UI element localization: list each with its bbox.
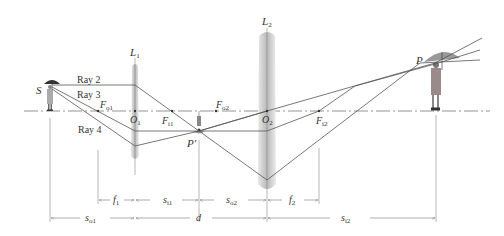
focal-point-fi2 [318,110,320,112]
final-image-person-p [424,52,460,111]
ray-2-label: Ray 2 [77,74,101,85]
lens-center-o1 [134,110,136,112]
dim-label-f1: f1 [113,194,120,207]
lens-l2 [258,28,276,222]
intermediate-image-label: P′ [186,137,197,149]
dim-label-so1: so1 [85,212,96,225]
dim-label-d: d [196,212,202,223]
focal-point-fi1 [171,110,173,112]
lens-l2-label: L2 [261,15,272,29]
focal-point-fo2 [215,110,217,112]
ray-chief-l2 [199,111,267,131]
focal-label-fo2: Fo2 [215,99,230,112]
dim-label-si1: si1 [163,194,173,207]
dim-label-f2: f2 [289,194,296,207]
dim-label-si2: si2 [341,212,351,225]
ray-3-label: Ray 3 [77,89,101,100]
lens-center-o2 [266,110,268,112]
dim-label-so2: so2 [226,194,237,207]
object-label-s: S [36,84,42,96]
two-lens-ray-diagram: L1 L2 S P P′ Ray 2 Ray 3 Ray 4 Fo1 Fi1 F… [0,0,504,236]
final-image-label-p: P [415,54,423,66]
focal-label-fi1: Fi1 [161,115,174,128]
focal-label-fi2: Fi2 [315,115,328,128]
focal-point-fo1 [97,110,99,112]
ray-4-label: Ray 4 [78,124,102,135]
focal-label-fo1: Fo1 [99,99,114,112]
lens-l1-label: L1 [129,46,140,60]
